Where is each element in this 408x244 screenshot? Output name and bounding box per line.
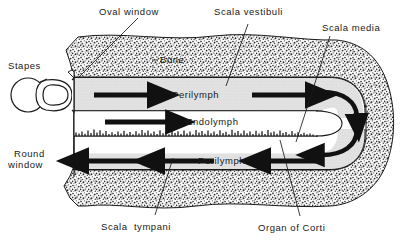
cochlea-diagram: Oval window Scala vestibuli Scala media … xyxy=(0,0,408,244)
label-round-window-line2: window xyxy=(8,159,43,171)
label-scala-vestibuli: Scala vestibuli xyxy=(214,6,283,18)
label-perilymph-lower: Perilymph xyxy=(198,155,245,167)
stapes xyxy=(11,78,74,112)
label-stapes: Stapes xyxy=(8,60,41,72)
label-scala-media: Scala media xyxy=(322,22,380,34)
label-organ-of-corti: Organ of Corti xyxy=(258,222,325,234)
label-oval-window: Oval window xyxy=(99,6,159,18)
label-bone: Bone xyxy=(160,54,184,66)
oval-window xyxy=(68,70,74,78)
label-scala-tympani: Scala tympani xyxy=(101,221,171,233)
label-round-window-line1: Round xyxy=(14,148,45,160)
label-perilymph-upper: Perilymph xyxy=(172,89,219,101)
label-endolymph: Endolymph xyxy=(186,116,238,128)
